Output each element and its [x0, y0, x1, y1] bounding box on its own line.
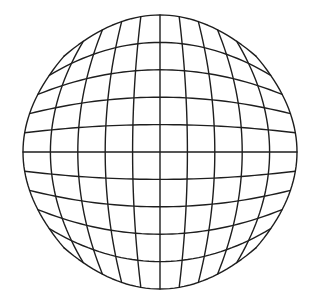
- barrel-distortion-grid-diagram: [0, 0, 320, 300]
